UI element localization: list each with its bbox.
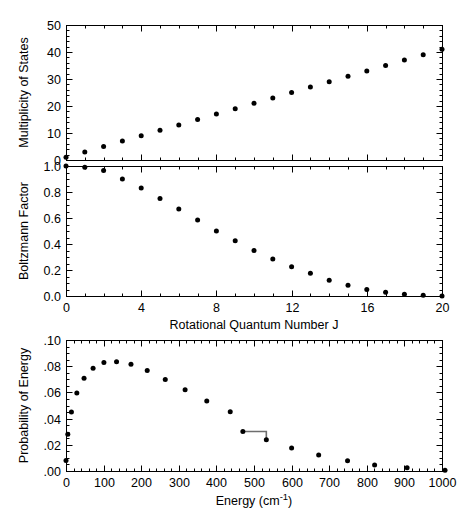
y-tick-label: 10 xyxy=(47,127,61,141)
step-connector xyxy=(243,431,266,439)
data-point xyxy=(383,290,388,295)
x-tick-label: 400 xyxy=(206,476,227,490)
y-tick-label: .04 xyxy=(44,413,61,427)
data-point xyxy=(163,377,168,382)
data-point xyxy=(364,287,369,292)
data-point xyxy=(346,74,351,79)
data-point xyxy=(101,144,106,149)
data-point xyxy=(252,248,257,253)
data-point xyxy=(120,139,125,144)
y-axis-label: Probability of Energy xyxy=(17,347,31,463)
data-point xyxy=(176,206,181,211)
data-point xyxy=(440,47,445,52)
x-tick-label: 500 xyxy=(244,476,265,490)
data-point xyxy=(345,458,350,463)
y-tick-label: 0.2 xyxy=(44,264,61,278)
data-point xyxy=(421,293,426,298)
data-point xyxy=(82,165,87,170)
data-point xyxy=(308,85,313,90)
data-point xyxy=(101,360,106,365)
y-tick-label: .08 xyxy=(44,360,61,374)
x-tick-label: 200 xyxy=(131,476,152,490)
data-point xyxy=(252,101,257,106)
data-point xyxy=(443,468,448,473)
data-point xyxy=(372,462,377,467)
data-point xyxy=(289,264,294,269)
data-point xyxy=(74,391,79,396)
multiplicity-panel: 01020304050Multiplicity of States xyxy=(17,19,445,168)
data-point xyxy=(82,149,87,154)
data-point xyxy=(65,432,70,437)
data-point xyxy=(402,292,407,297)
data-point xyxy=(204,398,209,403)
y-tick-label: 20 xyxy=(47,100,61,114)
data-point xyxy=(383,63,388,68)
data-point xyxy=(308,271,313,276)
y-tick-label: 0.0 xyxy=(44,290,61,304)
data-points xyxy=(64,164,445,299)
y-axis-label: Boltzmann Factor xyxy=(17,182,31,280)
x-tick-label: 0 xyxy=(63,476,70,490)
data-point xyxy=(327,79,332,84)
data-point xyxy=(264,437,269,442)
y-axis-label: Multiplicity of States xyxy=(17,37,31,147)
x-tick-label: 4 xyxy=(138,301,145,315)
data-point xyxy=(128,362,133,367)
boltzmann-panel: 0481216200.00.20.40.60.81.0Boltzmann Fac… xyxy=(17,160,449,332)
y-tick-label: .06 xyxy=(44,386,61,400)
x-axis-label-tail: ) xyxy=(288,494,292,508)
y-tick-label: 1.0 xyxy=(44,160,61,174)
data-point xyxy=(64,155,69,160)
data-point xyxy=(145,368,150,373)
x-tick-label: 900 xyxy=(394,476,415,490)
x-tick-label: 8 xyxy=(213,301,220,315)
plot-frame xyxy=(67,167,443,297)
data-point xyxy=(327,278,332,283)
y-tick-label: 0.8 xyxy=(44,186,61,200)
x-tick-label: 100 xyxy=(94,476,115,490)
x-tick-label: 600 xyxy=(282,476,303,490)
data-point xyxy=(228,409,233,414)
data-point xyxy=(421,52,426,57)
data-point xyxy=(316,453,321,458)
data-point xyxy=(233,238,238,243)
y-tick-label: 50 xyxy=(47,19,61,33)
data-point xyxy=(158,196,163,201)
data-point xyxy=(240,429,245,434)
x-tick-label: 20 xyxy=(436,301,450,315)
data-point xyxy=(270,256,275,261)
data-point xyxy=(91,366,96,371)
data-point xyxy=(289,446,294,451)
data-point xyxy=(69,410,74,415)
data-point xyxy=(195,217,200,222)
y-tick-label: 0.6 xyxy=(44,212,61,226)
x-tick-label: 12 xyxy=(286,301,300,315)
x-tick-label: 800 xyxy=(357,476,378,490)
x-axis-label: Rotational Quantum Number J xyxy=(170,318,339,332)
data-point xyxy=(289,90,294,95)
data-point xyxy=(270,95,275,100)
x-axis-label-base: Energy (cm xyxy=(216,494,280,508)
data-point xyxy=(158,128,163,133)
x-tick-label: 1000 xyxy=(429,476,457,490)
data-point xyxy=(120,177,125,182)
rotational-spectroscopy-figure: 01020304050Multiplicity of States0481216… xyxy=(0,0,471,517)
data-point xyxy=(402,58,407,63)
data-points xyxy=(64,359,448,472)
data-point xyxy=(139,186,144,191)
probability-panel: 01002003004005006007008009001000.00.02.0… xyxy=(17,334,456,508)
data-point xyxy=(440,294,445,299)
data-point xyxy=(64,164,69,169)
data-point xyxy=(114,359,119,364)
x-tick-label: 0 xyxy=(63,301,70,315)
plot-frame xyxy=(67,341,443,472)
data-point xyxy=(176,122,181,127)
data-point xyxy=(364,68,369,73)
data-point xyxy=(195,117,200,122)
data-point xyxy=(183,387,188,392)
x-tick-label: 16 xyxy=(361,301,375,315)
data-point xyxy=(101,168,106,173)
data-point xyxy=(214,112,219,117)
data-point xyxy=(346,283,351,288)
data-points xyxy=(64,47,445,160)
